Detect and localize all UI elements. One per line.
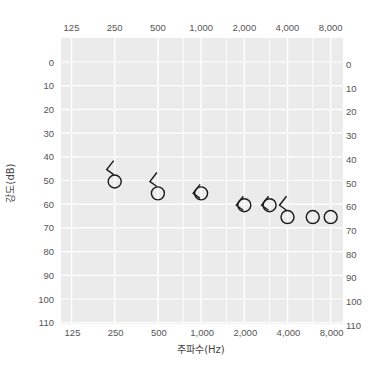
x-axis-top-ticks: 1252505001,0002,0004,0008,000 [64, 22, 343, 33]
y-tick-right: 20 [346, 106, 357, 117]
x-tick-bottom: 1,000 [190, 327, 214, 338]
y-tick-left: 60 [43, 199, 54, 210]
y-axis-left-ticks: 0102030405060708090100110 [38, 57, 54, 329]
y-tick-right: 80 [346, 249, 357, 260]
y-axis-title: 강도(dB) [5, 163, 16, 202]
y-tick-right: 90 [346, 272, 357, 283]
y-tick-left: 20 [43, 104, 54, 115]
x-tick-bottom: 250 [108, 327, 124, 338]
y-tick-left: 80 [43, 246, 54, 257]
y-tick-right: 110 [346, 320, 361, 331]
y-tick-left: 0 [49, 57, 54, 68]
y-tick-left: 40 [43, 151, 54, 162]
x-tick-bottom: 8,000 [320, 327, 344, 338]
x-tick-bottom: 4,000 [277, 327, 301, 338]
y-tick-left: 100 [38, 294, 54, 305]
y-tick-left: 50 [43, 175, 54, 186]
x-tick-top: 125 [64, 22, 80, 33]
y-axis-right-ticks: 0102030405060708090100110 [346, 59, 362, 331]
x-tick-bottom: 2,000 [233, 327, 257, 338]
y-tick-left: 10 [43, 80, 54, 91]
x-tick-bottom: 500 [151, 327, 167, 338]
y-tick-left: 70 [43, 222, 54, 233]
x-tick-top: 1,000 [189, 22, 213, 33]
y-tick-left: 90 [43, 270, 54, 281]
y-tick-right: 30 [346, 130, 357, 141]
x-tick-top: 500 [150, 22, 166, 33]
y-tick-right: 60 [346, 201, 357, 212]
audiogram-chart: 1252505001,0002,0004,0008,000 1252505001… [0, 0, 377, 374]
x-axis-bottom-ticks: 1252505001,0002,0004,0008,000 [65, 327, 344, 338]
y-tick-left: 30 [43, 128, 54, 139]
x-tick-top: 8,000 [319, 22, 343, 33]
y-tick-right: 50 [346, 178, 357, 189]
x-tick-top: 2,000 [232, 22, 256, 33]
y-tick-right: 10 [346, 83, 357, 94]
y-tick-right: 100 [346, 296, 362, 307]
y-tick-left: 110 [39, 317, 54, 328]
y-tick-right: 70 [346, 225, 357, 236]
x-tick-top: 250 [107, 22, 123, 33]
x-tick-top: 4,000 [276, 22, 300, 33]
y-tick-right: 0 [346, 59, 351, 70]
x-tick-bottom: 125 [65, 327, 81, 338]
y-tick-right: 40 [346, 154, 357, 165]
x-axis-title: 주파수(Hz) [177, 344, 225, 355]
